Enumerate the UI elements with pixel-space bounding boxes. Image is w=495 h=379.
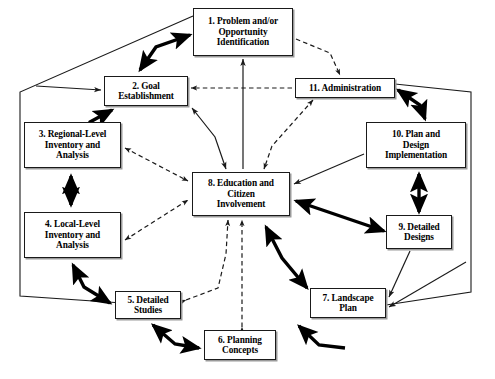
edge-n3-n8 [125,148,188,181]
node-planning-concepts[interactable]: 6. Planning Concepts [204,330,276,360]
edge-n4-n8 [125,200,188,240]
node-label: 5. Detailed Studies [125,295,170,316]
node-problem-opportunity-identification[interactable]: 1. Problem and/or Opportunity Identifica… [193,8,293,56]
edge-n10-n11 [398,90,425,119]
edge-n4-n5 [73,265,110,303]
node-plan-design-implementation[interactable]: 10. Plan and Design Implementation [366,122,466,168]
node-landscape-plan[interactable]: 7. Landscape Plan [310,288,386,318]
node-label: 9. Detailed Designs [396,222,441,243]
edge-n9-to-n7 [389,251,410,297]
node-regional-level-inventory-analysis[interactable]: 3. Regional-Level Inventory and Analysis [24,122,121,168]
edge-n1-to-n11 [296,39,340,75]
node-label: 11. Administration [307,83,383,93]
edge-n11-n8 [264,100,313,169]
node-label: 3. Regional-Level Inventory and Analysis [37,129,109,160]
node-label: 2. Goal Establishment [116,81,176,102]
edge-outer-to-n2 [36,86,101,90]
node-label: 6. Planning Concepts [216,335,264,356]
node-label: 8. Education and Citizen Involvement [206,178,276,209]
node-label: 4. Local-Level Inventory and Analysis [43,219,102,250]
edge-n8-n9 [296,201,384,231]
node-education-citizen-involvement[interactable]: 8. Education and Citizen Involvement [192,172,290,216]
edge-n6-n7 [299,326,345,348]
edge-n5-n6 [153,325,199,348]
node-label: 10. Plan and Design Implementation [383,129,449,160]
edge-outer-to-n7 [389,262,466,307]
edge-n5-n8 [186,220,228,300]
node-detailed-studies[interactable]: 5. Detailed Studies [115,291,181,319]
edge-n10-to-n8 [294,154,364,184]
edge-n7-n8 [266,227,307,288]
node-label: 1. Problem and/or Opportunity Identifica… [206,16,280,47]
node-administration[interactable]: 11. Administration [295,78,395,98]
edge-n2-n8 [192,108,226,169]
landscape-planning-diagram: 1. Problem and/or Opportunity Identifica… [0,0,495,379]
node-local-level-inventory-analysis[interactable]: 4. Local-Level Inventory and Analysis [24,212,121,258]
edge-outer-polygon-right [386,84,471,305]
node-label: 7. Landscape Plan [321,293,376,314]
node-detailed-designs[interactable]: 9. Detailed Designs [386,215,452,249]
edge-n2-n1 [140,35,190,70]
node-goal-establishment[interactable]: 2. Goal Establishment [104,76,188,106]
